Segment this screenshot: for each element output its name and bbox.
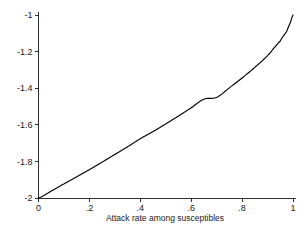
x-tick-label: .8 [238, 203, 246, 213]
y-tick-label: -1 [24, 10, 32, 20]
y-tick-label: -1.6 [17, 120, 33, 130]
y-tick-label: -2 [24, 193, 32, 203]
x-axis-title: Attack rate among susceptibles [106, 213, 224, 223]
x-tick-label: .6 [187, 203, 195, 213]
x-tick-label: .2 [86, 203, 94, 213]
x-tick-label: 1 [290, 203, 295, 213]
y-tick-label: -1.4 [17, 83, 33, 93]
x-axis: 0.2.4.6.81 [36, 198, 296, 213]
chart-canvas: -1-1.2-1.4-1.6-1.8-2 0.2.4.6.81 Attack r… [0, 0, 308, 231]
series-line [39, 15, 294, 198]
x-tick-label: 0 [36, 203, 41, 213]
data-series [39, 15, 294, 198]
y-axis: -1-1.2-1.4-1.6-1.8-2 [17, 10, 39, 203]
y-tick-label: -1.2 [17, 47, 33, 57]
chart-figure: -1-1.2-1.4-1.6-1.8-2 0.2.4.6.81 Attack r… [0, 0, 308, 231]
x-tick-label: .4 [137, 203, 145, 213]
y-tick-label: -1.8 [17, 157, 33, 167]
